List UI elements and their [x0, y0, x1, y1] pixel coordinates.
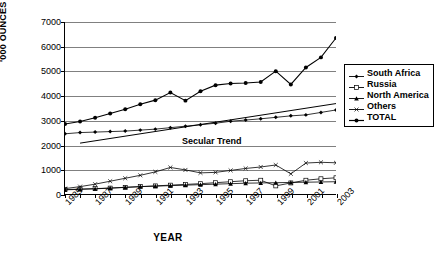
- series-south-africa: [65, 108, 336, 136]
- y-axis-tick-label: 5000: [41, 67, 61, 76]
- y-axis-tick-mark: [61, 96, 65, 97]
- y-axis-tick-mark: [61, 22, 65, 23]
- legend-label: North America: [365, 90, 429, 101]
- y-axis-tick-label: 2000: [41, 141, 61, 150]
- y-axis-tick-label: 7000: [41, 18, 61, 27]
- legend-label: TOTAL: [365, 112, 396, 123]
- y-axis-tick-label: 3000: [41, 116, 61, 125]
- legend-item: North America: [348, 90, 429, 101]
- chart-figure: '000 OUNCES 1985198719891991199319951997…: [0, 0, 436, 258]
- series-total: [65, 36, 336, 126]
- y-axis-tick-mark: [61, 146, 65, 147]
- legend-label: Russia: [365, 79, 397, 90]
- y-axis-tick-mark: [61, 195, 65, 196]
- legend-marker-icon: [348, 101, 365, 112]
- legend-marker-icon: [348, 79, 365, 90]
- data-series-layer: [65, 22, 336, 194]
- y-axis-tick-mark: [61, 71, 65, 72]
- legend-label: South Africa: [365, 68, 420, 79]
- legend-marker-icon: [348, 68, 365, 79]
- y-axis-tick-mark: [61, 47, 65, 48]
- y-axis-tick-mark: [61, 121, 65, 122]
- legend-item: Russia: [348, 79, 429, 90]
- y-axis-tick-label: 4000: [41, 92, 61, 101]
- legend-item: Others: [348, 101, 429, 112]
- legend-item: South Africa: [348, 68, 429, 79]
- secular-trend-annotation: Secular Trend: [182, 136, 242, 146]
- legend-label: Others: [365, 101, 396, 112]
- y-axis-tick-mark: [61, 170, 65, 171]
- legend-marker-icon: [348, 112, 365, 123]
- plot-area: 1985198719891991199319951997199920012003…: [64, 22, 336, 195]
- y-axis-tick-label: 1000: [41, 166, 61, 175]
- legend-item: TOTAL: [348, 112, 429, 123]
- chart-legend: South AfricaRussiaNorth AmericaOthersTOT…: [344, 64, 434, 127]
- y-axis-tick-label: 6000: [41, 42, 61, 51]
- y-axis-title: '000 OUNCES: [0, 2, 8, 62]
- x-axis-tick-label: 2003: [335, 186, 356, 207]
- legend-marker-icon: [348, 90, 365, 101]
- x-axis-title: YEAR: [0, 232, 336, 243]
